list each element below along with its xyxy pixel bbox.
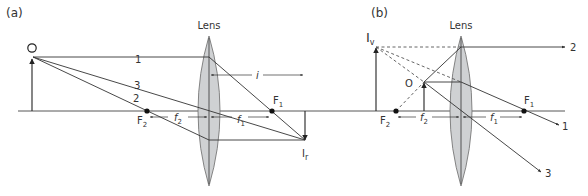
object-marker-a [28,44,36,52]
dim-i-label-a: i [256,70,259,81]
image-label-b: Iv [366,30,375,47]
ray-3-label-b: 3 [545,168,551,179]
ray-2-label-a: 2 [133,93,139,104]
object-label-b: O [405,78,413,89]
focal-point-f1-label-a: F1 [273,95,283,109]
focal-point-f2-label-a: F2 [137,115,147,129]
ray-1-b-out [461,82,559,125]
lens-a-label: Lens [197,20,220,31]
focal-point-f1-b [521,108,526,113]
virtual-ray-1-b [376,47,461,82]
dim-f1-label-a: f1 [237,114,245,128]
panel-b-label: (b) [371,6,388,20]
ray-3-label-a: 3 [134,80,140,91]
ray-1-label-a: 1 [135,54,141,65]
ray-3-a [33,57,305,140]
dim-f2-label-b: f2 [420,112,428,126]
ray-1-label-b: 1 [562,121,568,132]
focal-point-f2-a [144,108,149,113]
panel-b: (b) Lens Iv O 2 1 3 F2 F1 [340,6,576,186]
dim-f1-label-b: f1 [490,112,498,126]
panel-a-label: (a) [6,6,23,20]
focal-point-f1-a [269,108,274,113]
lens-b-label: Lens [449,20,472,31]
ray-2-label-b: 2 [570,42,576,53]
virtual-ray-3-b [376,47,424,82]
focal-point-f2-b [393,108,398,113]
panel-a: (a) Lens 1 2 3 Ir F2 F1 f2 f1 [6,6,340,186]
image-label-a: Ir [302,148,309,162]
lens-ray-diagram: (a) Lens 1 2 3 Ir F2 F1 f2 f1 [0,0,588,196]
focal-point-f1-label-b: F1 [524,95,534,109]
focal-point-f2-label-b: F2 [380,115,390,129]
